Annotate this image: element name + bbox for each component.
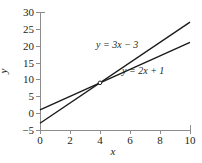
- y-tick-label: 10: [23, 74, 34, 85]
- line-chart: −5051015202530 0246810 x y y = 3x − 3 y …: [0, 0, 202, 163]
- series-line-1: [40, 22, 190, 123]
- series-annotation-line1: y = 3x − 3: [96, 40, 138, 50]
- x-tick-label: 8: [157, 135, 163, 146]
- series-lines: [40, 12, 190, 130]
- y-tick-label: 25: [23, 23, 34, 34]
- x-tick-label: 2: [67, 135, 73, 146]
- x-tick-label: 10: [185, 135, 196, 146]
- x-tick-label: 0: [37, 135, 43, 146]
- series-line-2: [40, 42, 190, 109]
- y-tick-label: 20: [23, 40, 34, 51]
- intersection-marker: [98, 81, 102, 85]
- x-tick-label: 4: [97, 135, 103, 146]
- y-axis-title: y: [0, 69, 9, 74]
- y-tick-label: 30: [23, 7, 34, 18]
- x-axis-title: x: [111, 146, 116, 157]
- y-tick-label: 15: [23, 57, 34, 68]
- plot-area: −5051015202530 0246810: [40, 12, 190, 130]
- series-annotation-line2: y = 2x + 1: [122, 66, 164, 76]
- y-tick-label: −5: [22, 125, 34, 136]
- y-tick-label: 5: [29, 91, 35, 102]
- y-tick-label: 0: [29, 108, 35, 119]
- x-axis-line: [40, 130, 191, 131]
- x-tick-label: 6: [127, 135, 133, 146]
